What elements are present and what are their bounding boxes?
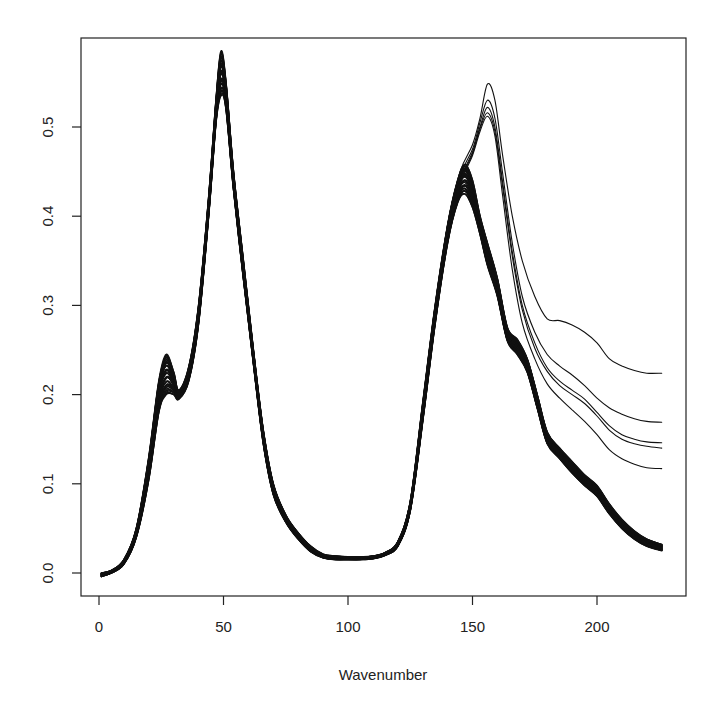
spectrum-line	[102, 88, 662, 576]
y-axis: 0.00.10.20.30.40.5	[39, 117, 81, 584]
spectra-chart: 050100150200 0.00.10.20.30.40.5 Wavenumb…	[0, 0, 719, 714]
spectrum-line	[102, 72, 662, 574]
outlier-spectrum-line	[102, 64, 662, 574]
spectrum-line	[102, 66, 662, 574]
spectrum-line	[102, 95, 662, 577]
spectrum-line	[102, 70, 662, 574]
spectrum-line	[102, 57, 662, 574]
spectrum-line	[102, 66, 662, 575]
x-axis: 050100150200	[95, 596, 610, 635]
spectrum-line	[102, 83, 662, 575]
spectrum-line	[102, 78, 662, 575]
spectrum-line	[102, 57, 662, 574]
plot-frame	[81, 38, 686, 596]
outlier-spectrum-line	[102, 71, 662, 575]
plot-canvas: 050100150200 0.00.10.20.30.40.5 Wavenumb…	[0, 0, 719, 714]
y-tick-label: 0.1	[39, 473, 56, 494]
spectrum-line	[102, 91, 662, 577]
y-tick-label: 0.3	[39, 295, 56, 316]
spectrum-line	[102, 51, 662, 573]
spectrum-line	[102, 56, 662, 573]
spectrum-line	[102, 87, 662, 576]
spectrum-line	[102, 60, 662, 574]
outlier-spectrum-line	[102, 57, 662, 574]
spectrum-line	[102, 72, 662, 575]
spectrum-line	[102, 79, 662, 575]
spectrum-line	[102, 91, 662, 576]
x-tick-label: 100	[335, 618, 360, 635]
spectrum-line	[102, 61, 662, 574]
spectrum-line	[102, 72, 662, 574]
spectrum-line	[102, 53, 662, 573]
spectrum-line	[102, 84, 662, 576]
x-axis-title: Wavenumber	[339, 666, 428, 683]
y-tick-label: 0.0	[39, 563, 56, 584]
spectrum-line	[102, 88, 662, 576]
outlier-spectrum-line	[102, 67, 662, 574]
outlier-spectrum-line	[102, 60, 662, 574]
y-tick-label: 0.4	[39, 206, 56, 227]
spectrum-line	[102, 64, 662, 574]
x-tick-label: 50	[215, 618, 232, 635]
y-tick-label: 0.2	[39, 384, 56, 405]
main-spectra-group	[102, 51, 662, 577]
spectrum-line	[102, 93, 662, 576]
y-tick-label: 0.5	[39, 117, 56, 138]
spectrum-line	[102, 52, 662, 573]
x-tick-label: 0	[95, 618, 103, 635]
outlier-spectra-group	[102, 57, 662, 575]
spectrum-line	[102, 64, 662, 574]
spectrum-line	[102, 74, 662, 575]
x-tick-label: 200	[584, 618, 609, 635]
x-tick-label: 150	[460, 618, 485, 635]
